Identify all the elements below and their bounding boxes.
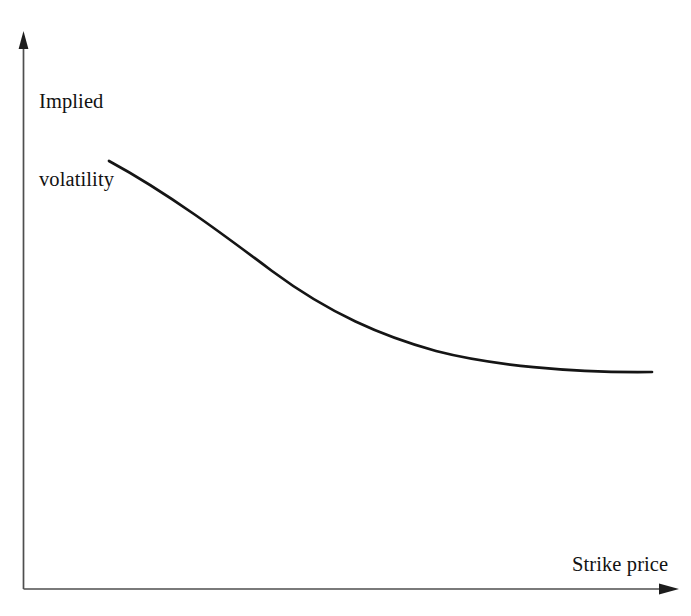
x-axis-arrowhead-icon bbox=[659, 584, 679, 595]
y-axis-arrowhead-icon bbox=[19, 31, 29, 49]
y-axis-label-line-1: Implied bbox=[39, 88, 114, 114]
y-axis-label-line-2: volatility bbox=[39, 166, 114, 192]
y-axis-label: Implied volatility bbox=[39, 36, 114, 244]
x-axis-label: Strike price bbox=[572, 552, 668, 576]
volatility-skew-curve bbox=[109, 161, 652, 372]
figure-canvas: Implied volatility Strike price bbox=[0, 0, 691, 616]
